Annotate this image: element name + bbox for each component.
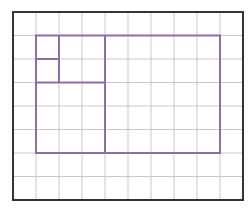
gridlines	[13, 12, 243, 200]
grid-diagram	[0, 0, 252, 208]
